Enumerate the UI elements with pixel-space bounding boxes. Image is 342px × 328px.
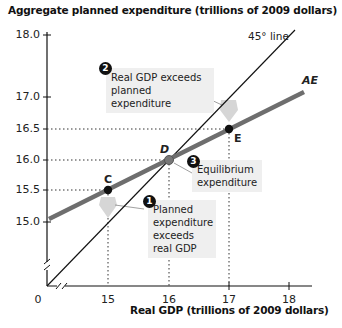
x-tick-0: 0 xyxy=(23,293,53,306)
arrow-up-gap xyxy=(99,197,117,218)
y-tick-17: 17.0 xyxy=(0,90,40,103)
point-e xyxy=(225,125,233,133)
callout-real-gdp-exceeds: Real GDP exceeds planned expenditure xyxy=(106,68,214,113)
badge-3: 3 xyxy=(187,155,200,168)
point-d xyxy=(165,156,174,165)
x-axis-title: Real GDP (trillions of 2009 dollars) xyxy=(130,304,329,316)
ae-label: AE xyxy=(302,74,318,87)
point-c xyxy=(104,186,112,194)
arrow-down-gap xyxy=(220,100,238,122)
line-45-label: 45° line xyxy=(248,30,289,42)
callout-equilibrium: Equilibrium expenditure xyxy=(192,160,262,192)
y-tick-18: 18.0 xyxy=(0,28,40,41)
y-tick-15-5: 15.5 xyxy=(0,183,40,196)
chart-plot xyxy=(0,0,342,328)
point-e-label: E xyxy=(234,132,242,145)
y-tick-16-5: 16.5 xyxy=(0,122,40,135)
point-d-label: D xyxy=(160,143,169,156)
y-tick-15: 15.0 xyxy=(0,215,40,228)
badge-2: 2 xyxy=(99,62,112,75)
badge-1: 1 xyxy=(143,195,156,208)
x-tick-15: 15 xyxy=(93,293,123,306)
callout-planned-exceeds: Planned expenditure exceeds real GDP xyxy=(148,200,216,258)
y-tick-16: 16.0 xyxy=(0,153,40,166)
point-c-label: C xyxy=(104,173,112,186)
